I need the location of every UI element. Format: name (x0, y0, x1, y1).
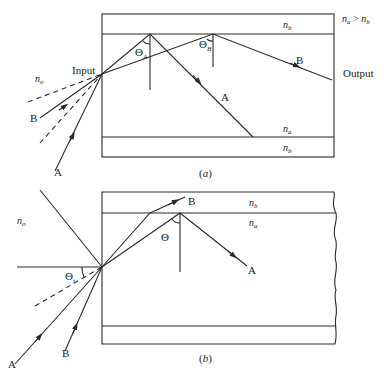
label-ray-b-escaping-b: B (188, 195, 195, 207)
ray-b-escaping-b (102, 197, 185, 267)
angle-arc-theta-i (82, 267, 84, 277)
incident-ray-b-a (40, 74, 102, 118)
arrow-b-incident-b (73, 326, 76, 333)
arrow-a-guided-b (228, 251, 234, 256)
ray-a-guided-a (102, 34, 253, 137)
label-n-b-top-a: nb (283, 19, 292, 32)
label-condition: na > nb (342, 13, 370, 26)
incident-ray-a-b (15, 267, 102, 364)
label-output: Output (343, 67, 374, 79)
angle-arc-theta-b (207, 39, 213, 41)
angle-arc-theta-a (143, 41, 150, 44)
dashed-line-lower-a (40, 74, 102, 143)
label-n-o-b: no (17, 215, 26, 228)
label-ray-a-incident-b: A (8, 358, 16, 370)
label-ray-b-incident-b: B (62, 347, 69, 359)
waveguide-diagram: no Input B A ΘA ΘB A B Output nb na nb n… (0, 0, 391, 381)
label-n-a-b: na (249, 217, 258, 230)
reflected-line-b (40, 190, 102, 267)
waveguide-box-b (102, 192, 336, 344)
label-theta-i: Θi (65, 270, 75, 285)
label-ray-b-guided-a: B (296, 54, 303, 66)
arrow-b-escaping-b (168, 201, 176, 205)
label-n-b-b: nb (249, 197, 258, 210)
label-theta-a: ΘA (135, 46, 148, 61)
label-ray-a-guided-b: A (248, 264, 256, 276)
arrow-b-incident-a (59, 106, 65, 110)
label-ray-a-guided-a: A (221, 91, 229, 103)
label-ray-b-incident-a: B (30, 112, 37, 124)
arrow-a-incident-b (35, 336, 40, 342)
label-n-a-bottom-a: na (283, 123, 292, 136)
angle-arc-theta-b-panel (172, 219, 180, 223)
label-theta: Θ (161, 231, 169, 243)
caption-b: (b) (199, 352, 212, 365)
label-n-b-bottom-a: nb (283, 142, 292, 155)
caption-a: (a) (199, 167, 212, 180)
panel-a: no Input B A ΘA ΘB A B Output nb na nb n… (28, 13, 374, 180)
label-n-o-a: no (35, 73, 44, 86)
label-theta-b: ΘB (199, 38, 212, 53)
label-input: Input (72, 64, 95, 76)
panel-b: no Θi Θ B A A B nb na (b) (8, 190, 336, 370)
label-ray-a-incident-a: A (54, 166, 62, 178)
